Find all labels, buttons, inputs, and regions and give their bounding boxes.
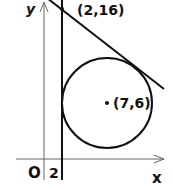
circle-center-label: (7,6) — [113, 95, 151, 111]
tangent-point-label: (2,16) — [77, 2, 124, 18]
x-axis-label: x — [152, 169, 162, 187]
x-axis — [16, 155, 164, 163]
y-axis — [40, 2, 48, 180]
circle-center-point — [105, 101, 109, 105]
origin-label: O — [28, 164, 41, 182]
point-2-16 — [60, 7, 64, 11]
diagram-canvas: y x O 2 (2,16) (7,6) — [0, 0, 173, 189]
y-axis-label: y — [26, 1, 36, 17]
vertical-line-label: 2 — [49, 165, 59, 181]
